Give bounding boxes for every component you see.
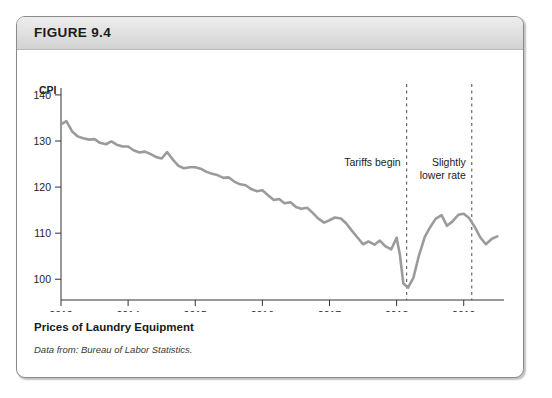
annotation-label: Slightly: [432, 156, 467, 168]
y-axis-ticks: 140130120110100: [33, 89, 61, 285]
figure-card: FIGURE 9.4 140130120110100 2013201420152…: [16, 16, 524, 378]
annotation-label: Tariffs begin: [344, 156, 401, 168]
y-tick-label: 110: [34, 227, 51, 239]
figure-header-bar: FIGURE 9.4: [17, 17, 523, 50]
chart-axes: [61, 88, 504, 300]
y-tick-label: 100: [33, 273, 51, 285]
chart-plot-area: 140130120110100 201320142015201620172018…: [17, 50, 523, 312]
y-tick-label: 120: [33, 181, 51, 193]
figure-number-label: FIGURE 9.4: [34, 25, 111, 40]
line-chart-svg: 140130120110100 201320142015201620172018…: [17, 50, 524, 312]
caption-source-note: Data from: Bureau of Labor Statistics.: [34, 344, 192, 355]
cpi-line-series: [61, 121, 497, 287]
y-tick-label: 130: [33, 135, 51, 147]
chart-annotations: Tariffs beginSlightlylower rate: [344, 84, 472, 300]
caption-title: Prices of Laundry Equipment: [34, 321, 194, 333]
y-axis-title: CPI: [39, 84, 57, 96]
annotation-label: lower rate: [420, 169, 466, 181]
figure-caption-block: Prices of Laundry Equipment Data from: B…: [17, 311, 523, 377]
